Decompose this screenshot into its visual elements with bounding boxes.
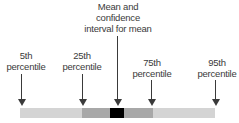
label-line: percentile [62,61,101,72]
label-25th-percentile: 25th percentile [62,50,101,72]
label-5th-percentile: 5th percentile [6,50,45,72]
label-line: 75th [132,57,171,68]
arrow-shaft [215,80,216,100]
segment-75-95 [153,108,215,118]
label-line: percentile [6,61,45,72]
label-line: percentile [132,68,171,79]
arrow-down-icon [114,99,122,106]
arrow-shaft [21,74,22,100]
label-line: 25th [62,50,101,61]
arrow-down-icon [18,99,26,106]
arrow-down-icon [212,99,220,106]
arrow-shaft [82,74,83,100]
label-line: 5th [6,50,45,61]
label-75th-percentile: 75th percentile [132,57,171,79]
label-line: percentile [197,68,236,79]
label-line: confidence [84,12,151,23]
segment-5-25 [20,108,82,118]
label-95th-percentile: 95th percentile [197,57,236,79]
label-mean-ci: Mean and confidence interval for mean [84,1,151,34]
arrow-down-icon [148,99,156,106]
segment-25-mean [82,108,110,118]
segment-mean-ci [110,108,124,118]
arrow-down-icon [79,99,87,106]
label-line: 95th [197,57,236,68]
arrow-shaft [117,36,118,100]
arrow-shaft [151,80,152,100]
label-line: Mean and [84,1,151,12]
label-line: interval for mean [84,23,151,34]
segment-mean-75 [124,108,153,118]
